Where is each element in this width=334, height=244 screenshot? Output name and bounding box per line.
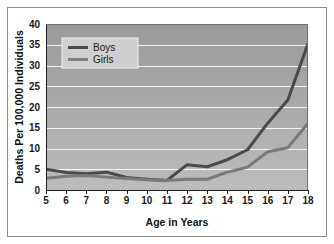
y-tick-label: 35 <box>29 39 41 50</box>
y-tick-label: 40 <box>29 19 41 30</box>
y-tick-label: 15 <box>29 122 41 133</box>
y-tick-label: 5 <box>34 164 40 175</box>
y-axis-tick-labels: 0510152025303540 <box>29 19 41 196</box>
x-tick-label: 11 <box>162 195 173 206</box>
x-tick-label: 10 <box>141 195 153 206</box>
y-axis-title: Deaths Per 100,000 Individuals <box>13 30 25 184</box>
x-tick-label: 13 <box>202 195 214 206</box>
x-tick-label: 7 <box>84 195 90 206</box>
x-axis-title: Age in Years <box>146 216 209 228</box>
y-tick-label: 20 <box>29 102 41 113</box>
y-tick-label: 10 <box>29 143 41 154</box>
x-tick-label: 8 <box>104 195 110 206</box>
x-tick-label: 9 <box>124 195 130 206</box>
legend: Boys Girls <box>62 38 138 68</box>
x-tick-label: 6 <box>63 195 69 206</box>
y-tick-label: 0 <box>34 185 40 196</box>
legend-label-girls: Girls <box>93 54 114 65</box>
line-chart: 0510152025303540 56789101112131415161718… <box>0 0 334 244</box>
y-tick-label: 30 <box>29 60 41 71</box>
x-tick-label: 14 <box>222 195 234 206</box>
x-tick-label: 18 <box>302 195 314 206</box>
x-tick-label: 12 <box>182 195 194 206</box>
x-axis-tick-labels: 56789101112131415161718 <box>43 195 314 206</box>
x-tick-label: 16 <box>262 195 274 206</box>
legend-label-boys: Boys <box>93 42 115 53</box>
x-tick-label: 17 <box>282 195 294 206</box>
x-tick-label: 15 <box>242 195 254 206</box>
y-tick-label: 25 <box>29 81 41 92</box>
chart-figure: 0510152025303540 56789101112131415161718… <box>0 0 334 244</box>
x-tick-label: 5 <box>43 195 49 206</box>
